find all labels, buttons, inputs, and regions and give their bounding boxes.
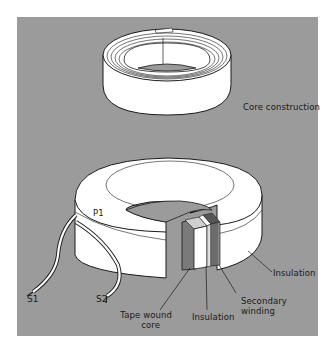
insulation-outer-callout: Insulation xyxy=(273,269,316,278)
insulation-inner-callout: Insulation xyxy=(192,313,235,322)
secondary-winding-callout-line2: winding xyxy=(241,307,275,316)
core-construction-caption: Core construction xyxy=(243,103,320,112)
secondary-winding-callout-line1: Secondary xyxy=(241,297,287,306)
lead-s2-label: S2 xyxy=(96,295,108,304)
tape-wound-core-callout-line1: Tape wound xyxy=(114,311,172,320)
lead-s1-label: S1 xyxy=(27,295,39,304)
toroid-transformer-illustration xyxy=(27,158,272,310)
primary-p1-label: P1 xyxy=(93,209,104,218)
tape-wound-core-illustration xyxy=(103,28,231,115)
tape-wound-core-callout-line2: core xyxy=(114,321,160,330)
